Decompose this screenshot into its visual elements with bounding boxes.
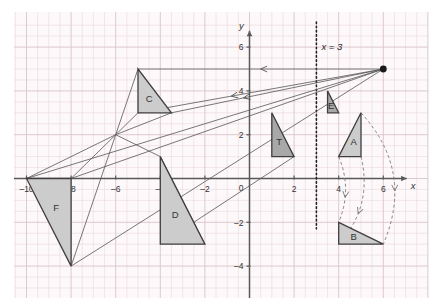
shape-label-T: T (276, 136, 282, 147)
coordinate-grid-diagram: xy–10–8–6–4–2246642–2–40x = 3TABCDEF (0, 0, 434, 305)
x-tick-label-4: 4 (336, 184, 341, 194)
y-tick-label--2: –2 (234, 218, 244, 228)
y-tick-label-2: 2 (239, 130, 244, 140)
y-tick-label-6: 6 (239, 42, 244, 52)
shape-label-A: A (350, 136, 357, 147)
shape-label-E: E (328, 100, 334, 111)
x-tick-label--2: –2 (200, 184, 210, 194)
mirror-line-label: x = 3 (320, 41, 343, 52)
x-tick-label-2: 2 (292, 184, 297, 194)
shape-label-C: C (146, 93, 153, 104)
x-tick-label--6: –6 (111, 184, 121, 194)
shape-label-F: F (53, 202, 59, 213)
x-tick-label-6: 6 (381, 184, 386, 194)
centre-of-enlargement-point[interactable] (380, 66, 387, 73)
shape-label-D: D (172, 209, 179, 220)
y-tick-label--4: –4 (234, 261, 244, 271)
diagram-canvas: xy–10–8–6–4–2246642–2–40x = 3TABCDEF (0, 0, 434, 305)
shape-label-B: B (350, 231, 356, 242)
